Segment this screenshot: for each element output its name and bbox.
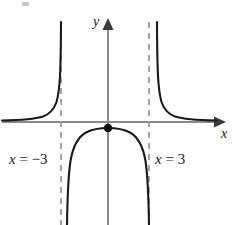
asymptote-label-right: x = 3 [155,152,185,167]
asymptote-label-right-value: = 3 [162,151,185,167]
plot-canvas [0,0,237,225]
asymptote-label-left-variable: x [9,151,16,167]
asymptote-label-right-variable: x [155,151,162,167]
y-axis-label: y [93,15,99,29]
x-axis-label: x [221,127,227,141]
function-graph-figure: y x x = −3 x = 3 [0,0,237,225]
curve-right-branch [157,22,216,121]
asymptote-label-left: x = −3 [9,152,48,167]
curve-left-branch [2,22,61,121]
y-axis-arrowhead [103,18,114,30]
maximum-point-marker [104,124,112,132]
asymptote-label-left-value: = −3 [16,151,48,167]
